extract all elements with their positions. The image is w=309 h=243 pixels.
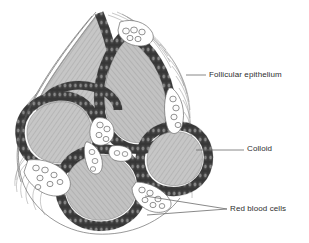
colloid-right bbox=[147, 132, 203, 186]
label-colloid: Colloid bbox=[247, 144, 272, 153]
thyroid-histology-figure: Follicular epithelium Colloid Red blood … bbox=[0, 0, 309, 243]
follicle-right bbox=[140, 126, 208, 192]
label-red-blood-cells: Red blood cells bbox=[230, 204, 286, 213]
capillary-center bbox=[90, 118, 114, 146]
label-follicular-epithelium: Follicular epithelium bbox=[209, 70, 282, 79]
